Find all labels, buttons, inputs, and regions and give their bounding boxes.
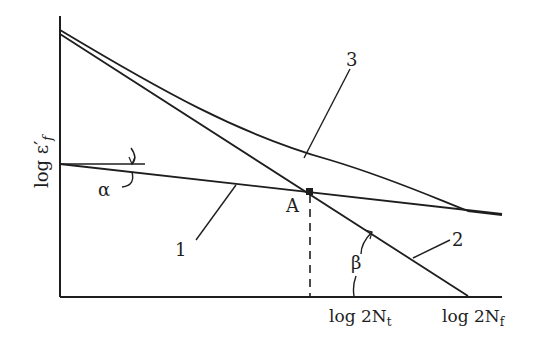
strain-life-diagram: log ε′f α β A 1 2 3 log 2Nt log 2Nf	[0, 0, 536, 346]
curve-3-total	[60, 30, 502, 215]
leader-line-1	[196, 185, 236, 240]
alpha-arrow-icon	[129, 157, 135, 164]
point-a-marker	[306, 188, 313, 195]
curve-label-3: 3	[346, 49, 357, 70]
line-2-plastic	[60, 34, 468, 296]
alpha-label: α	[98, 179, 110, 200]
beta-label: β	[351, 252, 361, 273]
line-1-elastic	[60, 164, 502, 214]
leader-line-2	[413, 240, 450, 258]
leader-line-3	[304, 69, 350, 158]
x-tick-log-2nt: log 2Nt	[329, 306, 392, 329]
point-a-label: A	[285, 195, 300, 216]
curve-label-1: 1	[175, 239, 186, 260]
x-tick-log-2nf: log 2Nf	[442, 306, 506, 329]
curve-label-2: 2	[452, 229, 463, 250]
alpha-arc	[122, 148, 135, 187]
y-axis-label: log ε′f	[31, 134, 55, 188]
